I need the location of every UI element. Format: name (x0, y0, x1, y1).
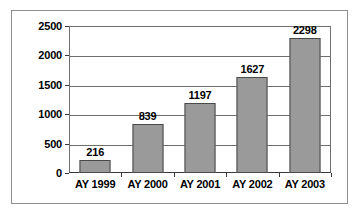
y-axis-tick-label: 1500 (16, 79, 62, 90)
x-axis-category-label: AY 2001 (174, 179, 226, 190)
bar-value-label: 2298 (293, 25, 317, 36)
x-axis-category-label: AY 2002 (226, 179, 278, 190)
x-axis-tick-mark (279, 173, 280, 177)
bar-slot: 839 (121, 26, 173, 173)
bar[interactable] (80, 160, 111, 173)
bar-value-label: 1627 (241, 64, 265, 75)
bar-slot: 216 (69, 26, 121, 173)
bar-value-label: 839 (139, 111, 157, 122)
y-axis-tick-label: 1000 (16, 109, 62, 120)
y-axis-tick-label: 2000 (16, 50, 62, 61)
x-axis-tick-mark (331, 173, 332, 177)
bar-slot: 1627 (226, 26, 278, 173)
x-axis-tick-mark (174, 173, 175, 177)
bar[interactable] (184, 103, 215, 173)
bar-slot: 2298 (279, 26, 331, 173)
bar-value-label: 216 (86, 147, 104, 158)
x-axis-category-label: AY 2000 (121, 179, 173, 190)
bar-value-label: 1197 (188, 90, 211, 101)
y-axis-tick-label: 0 (16, 168, 62, 179)
y-axis-tick-label: 2500 (16, 21, 62, 32)
bar[interactable] (237, 77, 268, 173)
x-axis-tick-mark (226, 173, 227, 177)
bar[interactable] (289, 38, 320, 173)
x-axis-category-label: AY 2003 (279, 179, 331, 190)
y-axis-tick-label: 500 (16, 138, 62, 149)
y-axis-tick-mark (65, 173, 69, 174)
bar[interactable] (132, 124, 163, 173)
x-axis-labels: AY 1999AY 2000AY 2001AY 2002AY 2003 (69, 179, 331, 195)
chart-frame: 05001000150020002500 216839119716272298 … (11, 10, 348, 204)
bar-slot: 1197 (174, 26, 226, 173)
x-axis-category-label: AY 1999 (69, 179, 121, 190)
x-axis-tick-mark (121, 173, 122, 177)
